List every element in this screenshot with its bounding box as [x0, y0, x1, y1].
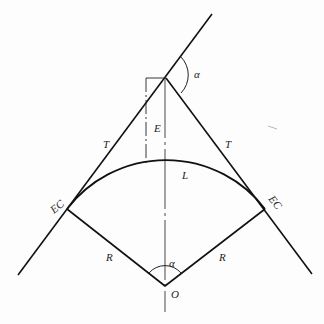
label-t-left: T	[103, 138, 110, 150]
radius-right	[165, 209, 265, 286]
label-o: O	[171, 288, 179, 300]
curve-diagram: α E T T L EC EC R R α O	[0, 0, 324, 324]
deflection-angle-arc	[181, 57, 188, 93]
stray-mark	[268, 126, 277, 129]
label-r-right: R	[218, 251, 226, 263]
diagram-svg: α E T T L EC EC R R α O	[0, 0, 324, 324]
radius-left	[67, 209, 165, 286]
label-ec-right: EC	[266, 192, 285, 212]
label-alpha-center: α	[169, 257, 175, 269]
left-tangent-line	[18, 14, 212, 275]
label-alpha-top: α	[194, 68, 200, 80]
label-r-left: R	[105, 251, 113, 263]
label-e: E	[153, 122, 161, 134]
label-l: L	[181, 169, 188, 181]
curve-arc	[67, 160, 265, 209]
label-t-right: T	[225, 138, 232, 150]
